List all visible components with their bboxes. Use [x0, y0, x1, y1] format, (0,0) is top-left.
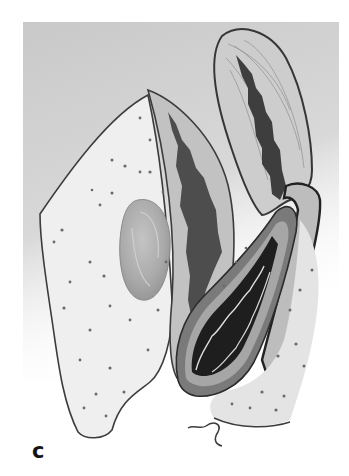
panel-label: c [32, 441, 44, 462]
anatomical-illustration [0, 0, 349, 476]
nodule [120, 200, 170, 301]
labial-fold [188, 423, 222, 446]
